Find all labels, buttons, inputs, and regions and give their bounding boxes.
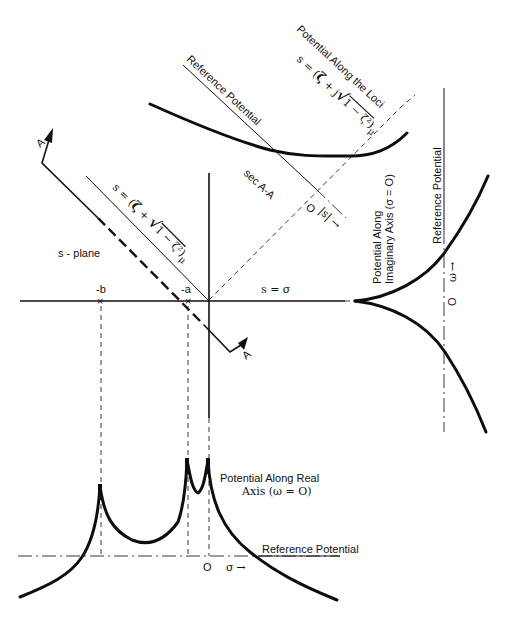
svg-text:s = (ζ + √1 − ζ²)μ: s = (ζ + √1 − ζ²)μ <box>108 178 196 266</box>
imag-title-line1: Potential Along <box>371 211 383 284</box>
section-arrow-top-label: A <box>34 135 48 149</box>
imag-origin-label: O <box>446 297 458 306</box>
loci-reference-label: Reference Potential <box>185 53 264 128</box>
sigma-label: σ→ <box>226 561 246 574</box>
s-plane-loci-formula: s = (ζ + √1 − ζ²)μ <box>108 178 196 266</box>
pole-a-label: -a <box>181 283 192 295</box>
root-locus-potential-diagram: Reference Potential Potential Along the … <box>0 0 512 618</box>
section-arrow-bottom-icon <box>238 337 248 350</box>
s-plane-label: s - plane <box>58 247 100 259</box>
section-arrow-bottom-label: A <box>240 347 254 361</box>
loci-axis-dashed-upper <box>400 95 415 108</box>
real-reference-label: Reference Potential <box>262 543 359 555</box>
imag-reference-label: Reference Potential <box>431 147 443 244</box>
pole-b-label: -b <box>96 283 106 295</box>
real-title-line1: Potential Along Real <box>220 472 319 484</box>
pole-b-marker-icon: × <box>97 295 103 307</box>
abs-s-label: |s|→ <box>315 205 343 232</box>
imag-potential-curve-lower <box>355 301 486 432</box>
pole-a-marker-icon: × <box>185 295 191 307</box>
omega-label: ω→ <box>446 262 459 282</box>
section-label: sec A-A <box>242 167 278 202</box>
real-axis-label: s = σ <box>261 283 291 296</box>
imaginary-potential-section: Potential Along Imaginary Axis (σ = O) R… <box>355 88 488 432</box>
section-arrow-top-icon <box>44 128 53 143</box>
s-plane-section: A A × × -b -a s - plane s = σ s = (ζ + √… <box>20 128 362 418</box>
real-potential-section: Potential Along Real Axis (ω = O) Refere… <box>18 306 359 600</box>
imag-title-line2: Imaginary Axis (σ = O) <box>383 174 395 284</box>
real-origin-label: O <box>203 561 212 573</box>
real-title-line2: Axis (ω = O) <box>241 485 312 498</box>
